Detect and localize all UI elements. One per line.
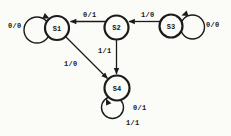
edge-label-s2-s1: 0/1 — [83, 11, 97, 19]
state-s4-label: S4 — [113, 85, 121, 93]
edge-label-s1-self: 0/0 — [8, 22, 22, 30]
edge-label-s2-s4: 1/1 — [98, 47, 112, 55]
edge-label-s4-self-1: 1/1 — [126, 119, 140, 127]
edge-label-s1-s4: 1/0 — [64, 60, 78, 68]
edge-label-s3-self: 0/0 — [206, 21, 220, 29]
state-s2-label: S2 — [112, 24, 120, 32]
state-machine-diagram: S1 S2 S3 S4 0/0 0/1 1/0 0/0 1/1 1/0 0/1 … — [0, 0, 231, 136]
edge-label-s3-s2: 1/0 — [141, 11, 155, 19]
self-loop-s3-arrowhead-icon — [181, 11, 189, 19]
edge-label-s4-self-0: 0/1 — [133, 104, 147, 112]
self-loop-s3 — [181, 15, 205, 39]
edge-s1-to-s4 — [66, 37, 108, 79]
diagram-canvas: S1 S2 S3 S4 0/0 0/1 1/0 0/0 1/1 1/0 0/1 … — [0, 0, 231, 136]
state-s1-label: S1 — [53, 25, 61, 33]
state-s3-label: S3 — [167, 23, 175, 31]
